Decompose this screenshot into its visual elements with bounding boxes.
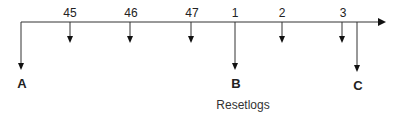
- arrowhead-icon: [127, 36, 133, 43]
- marker-label-a: A: [17, 76, 26, 91]
- arrowhead-icon: [232, 63, 238, 70]
- arrowhead-icon: [279, 36, 285, 43]
- resetlogs-caption: Resetlogs: [216, 98, 269, 112]
- marker-label-c: C: [353, 78, 362, 93]
- marker-label-b: B: [231, 76, 240, 91]
- tick-label-2: 2: [279, 6, 286, 20]
- timeline-diagram: [0, 0, 398, 119]
- arrowhead-icon: [339, 36, 345, 43]
- tick-label-47: 47: [185, 6, 198, 20]
- arrowhead-icon: [188, 36, 194, 43]
- arrowhead-icon: [67, 36, 73, 43]
- tick-label-45: 45: [63, 6, 76, 20]
- arrowhead-icon: [18, 63, 24, 70]
- tick-label-46: 46: [124, 6, 137, 20]
- tick-label-3: 3: [340, 6, 347, 20]
- tick-label-1: 1: [232, 6, 239, 20]
- axis-arrowhead-icon: [378, 18, 386, 26]
- arrowhead-icon: [354, 65, 360, 72]
